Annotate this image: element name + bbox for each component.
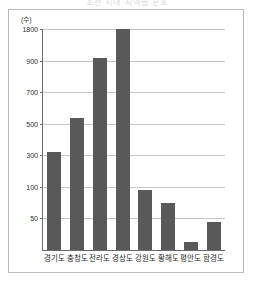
y-axis-tick-mark [40,155,43,156]
bar [93,58,107,250]
gridline [43,92,225,93]
y-axis-tick-label: 100 [26,183,38,190]
bar [116,29,130,250]
y-axis-unit-label: (수) [21,14,32,24]
x-axis-tick-label: 강원도 [135,255,156,263]
x-axis-tick-label: 경기도 [44,255,65,263]
y-axis-tick-label: 50 [30,215,38,222]
y-axis-tick-label: 700 [26,89,38,96]
x-axis-tick-label: 경상도 [112,255,133,263]
y-axis-tick-label: 1800 [22,26,38,33]
bar [138,190,152,250]
y-axis-tick-mark [40,61,43,62]
y-axis-tick-mark [40,29,43,30]
bar [70,118,84,250]
y-axis-tick-mark [40,92,43,93]
y-axis-tick-label: 900 [26,57,38,64]
y-axis-tick-label: 300 [26,152,38,159]
bar [207,222,221,250]
y-axis-tick-mark [40,124,43,125]
bar [47,152,61,250]
chart-title: 조선 시대 지역별 분포 [0,0,254,6]
plot-area: 501003005007009001800경기도충청도전라도경상도강원도황해도평… [42,29,225,251]
bar [184,242,198,250]
x-axis-tick-label: 황해도 [158,255,179,263]
x-axis-tick-label: 함경도 [203,255,224,263]
bar [161,203,175,250]
x-axis-tick-label: 충청도 [67,255,88,263]
gridline [43,29,225,30]
y-axis-tick-mark [40,218,43,219]
y-axis-tick-mark [40,187,43,188]
chart-frame: (수) 501003005007009001800경기도충청도전라도경상도강원도… [8,9,244,273]
chart-figure: 조선 시대 지역별 분포 (수) 501003005007009001800경기… [0,0,254,282]
y-axis-tick-label: 500 [26,120,38,127]
x-axis-tick-label: 전라도 [89,255,110,263]
gridline [43,61,225,62]
x-axis-tick-label: 평안도 [180,255,201,263]
